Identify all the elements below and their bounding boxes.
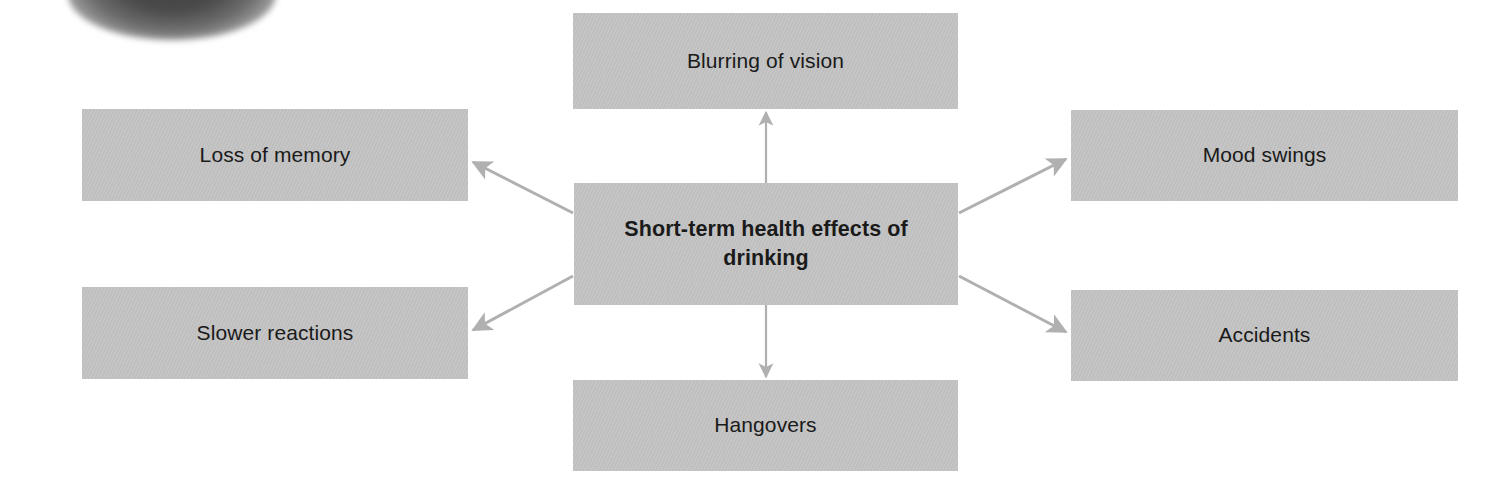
node-loss-of-memory[interactable]: Loss of memory [82, 109, 468, 201]
node-hangovers[interactable]: Hangovers [573, 380, 958, 471]
node-label: Short-term health effects of drinking [586, 215, 946, 273]
node-label: Hangovers [714, 411, 816, 439]
diagram-canvas: Blurring of vision Loss of memory Mood s… [0, 0, 1490, 498]
arrow-center-to-accidents [959, 276, 1066, 332]
arrow-center-to-loss-of-memory [473, 162, 573, 213]
arrow-center-to-mood-swings [959, 159, 1066, 213]
node-label: Mood swings [1203, 141, 1327, 169]
node-label: Accidents [1219, 321, 1311, 349]
node-label: Slower reactions [197, 319, 354, 347]
node-center-topic[interactable]: Short-term health effects of drinking [574, 183, 958, 305]
node-label: Loss of memory [200, 141, 351, 169]
node-slower-reactions[interactable]: Slower reactions [82, 287, 468, 379]
node-accidents[interactable]: Accidents [1071, 290, 1458, 381]
node-label: Blurring of vision [687, 47, 844, 75]
node-blurring-of-vision[interactable]: Blurring of vision [573, 13, 958, 109]
node-mood-swings[interactable]: Mood swings [1071, 110, 1458, 201]
arrow-center-to-slower-reactions [473, 276, 573, 330]
